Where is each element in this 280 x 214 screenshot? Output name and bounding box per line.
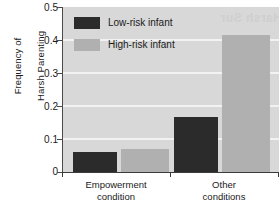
x-category-empowerment-line-1: Empowerment	[62, 179, 170, 191]
legend-item-low-risk: Low-risk infant	[74, 14, 204, 32]
x-category-other-line-1: Other	[170, 179, 278, 191]
y-tick-label-0.4: 0.4	[30, 36, 58, 46]
x-category-other: Other conditions	[170, 179, 278, 203]
x-tick-mark-right-edge	[278, 172, 279, 177]
x-category-empowerment-line-2: condition	[62, 191, 170, 203]
y-tick-label-0.3: 0.3	[30, 69, 58, 79]
x-tick-mark-left-edge	[62, 172, 63, 177]
x-category-other-line-2: conditions	[170, 191, 278, 203]
bar-empowerment-low-risk	[73, 152, 117, 172]
bar-other-high-risk	[222, 35, 270, 172]
legend-swatch-high-risk-icon	[74, 39, 100, 51]
chart-legend: Low-risk infant High-risk infant	[74, 14, 204, 58]
x-tick-mark-group-divider	[170, 172, 171, 177]
y-axis-title-line-1: Frequency of	[12, 6, 24, 126]
y-tick-label-0: 0	[30, 167, 58, 177]
bar-chart-figure: Frequency of Harsh Parenting 0.5 0.4 0.3…	[0, 0, 280, 214]
x-category-empowerment: Empowerment condition	[62, 179, 170, 203]
x-axis-tick-marks	[62, 172, 280, 178]
y-tick-label-0.5: 0.5	[30, 3, 58, 13]
legend-item-high-risk: High-risk infant	[74, 36, 204, 54]
y-tick-label-0.2: 0.2	[30, 102, 58, 112]
y-tick-label-0.1: 0.1	[30, 135, 58, 145]
legend-label-low-risk: Low-risk infant	[108, 17, 172, 29]
legend-swatch-low-risk-icon	[74, 17, 100, 29]
legend-label-high-risk: High-risk infant	[108, 39, 175, 51]
bar-empowerment-high-risk	[121, 149, 169, 172]
bar-other-low-risk	[174, 117, 218, 172]
y-axis-tick-labels: 0.5 0.4 0.3 0.2 0.1 0	[28, 0, 58, 214]
x-axis-category-labels: Empowerment condition Other conditions	[62, 179, 280, 213]
